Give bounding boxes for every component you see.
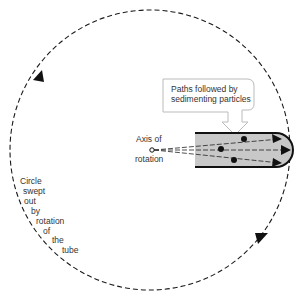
particle <box>218 146 224 152</box>
paths-label-line: Paths followed by <box>171 84 251 94</box>
circle-label-line: swept <box>23 186 45 196</box>
circle-arrow-icon-bottom-right <box>255 233 268 244</box>
paths-label: Paths followed by sedimenting particles <box>171 84 251 104</box>
circle-label-line: rotation <box>36 216 64 226</box>
circle-label-line: the <box>52 235 64 245</box>
particle <box>231 157 237 163</box>
centrifuge-diagram: Paths followed by sedimenting particles … <box>0 0 296 291</box>
axis-label-bottom: rotation <box>135 154 163 164</box>
circle-label-line: Circle <box>20 176 42 186</box>
circle-label-line: out <box>24 196 36 206</box>
circle-label-line: tube <box>62 245 79 255</box>
circle-arrow-icon-top-left <box>33 70 44 82</box>
circle-label-line: by <box>31 206 40 216</box>
paths-label-line: sedimenting particles <box>171 94 251 104</box>
particle <box>241 136 247 142</box>
axis-point <box>150 148 154 152</box>
diagram-graphics <box>0 0 296 291</box>
axis-label-top: Axis of <box>136 134 162 144</box>
circle-label-line: of <box>43 226 50 236</box>
